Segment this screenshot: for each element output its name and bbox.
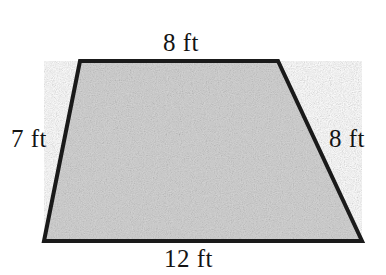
dimension-label-left: 7 ft xyxy=(11,126,47,151)
dimension-label-bottom: 12 ft xyxy=(164,246,213,271)
dimension-label-top: 8 ft xyxy=(163,30,199,55)
dimension-label-right: 8 ft xyxy=(329,126,365,151)
figure-canvas: 8 ft 8 ft 12 ft 7 ft xyxy=(0,0,386,275)
trapezoid-fill-texture xyxy=(44,61,362,241)
